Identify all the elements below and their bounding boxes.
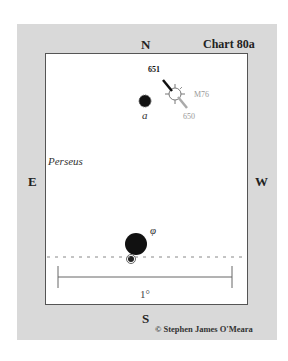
ngc651-label: 651 — [148, 66, 160, 74]
scale-label: 1° — [140, 289, 150, 300]
scale-bar — [58, 266, 232, 288]
alpha-star-icon — [139, 95, 151, 107]
m76-label: M76 — [194, 91, 209, 99]
ngc651-pointer-line — [163, 80, 172, 91]
west-label: W — [255, 175, 268, 188]
copyright-text: © Stephen James O'Meara — [155, 325, 253, 334]
phi-star-icon — [125, 233, 147, 255]
chart-graphics — [0, 0, 288, 361]
ngc650-label: 650 — [183, 113, 195, 121]
east-label: E — [28, 175, 37, 188]
faint-double-star-icon — [127, 255, 136, 264]
chart-title: Chart 80a — [203, 38, 255, 50]
constellation-label: Perseus — [48, 156, 83, 167]
south-label: S — [142, 312, 149, 325]
alpha-star-label: a — [142, 110, 148, 121]
north-label: N — [141, 38, 150, 51]
ngc650-pointer-line — [178, 97, 187, 108]
phi-star-label: φ — [150, 225, 156, 236]
